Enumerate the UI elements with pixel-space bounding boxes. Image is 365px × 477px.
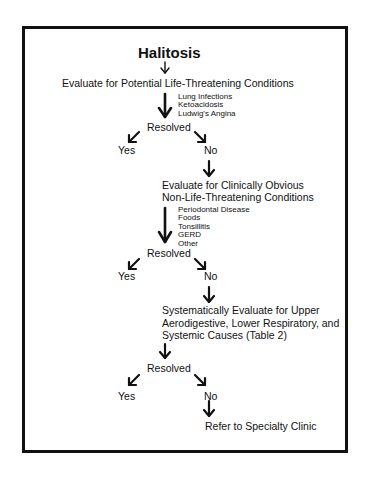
step-3-label-line-1: Systematically Evaluate for Upper [162,305,320,316]
step-3-no: No [204,391,217,402]
step-1-decision: Resolved [147,122,191,133]
step-1-yes: Yes [118,145,135,156]
consideration-item: Ludwig's Angina [178,110,236,118]
step-3-label-line-2: Aerodigestive, Lower Respiratory, and [162,318,339,329]
step-3-decision: Resolved [147,363,191,374]
step-3-yes: Yes [118,391,135,402]
step-2-considerations: Periodontal Disease Foods Tonsillitis GE… [178,206,250,248]
final-outcome: Refer to Specialty Clinic [205,421,316,432]
step-3-label-line-3: Systemic Causes (Table 2) [162,330,287,341]
step-1-label: Evaluate for Potential Life-Threatening … [62,78,294,89]
step-2-label-line-1: Evaluate for Clinically Obvious [162,180,304,191]
step-2-no: No [204,271,217,282]
diagram-title: Halitosis [138,45,201,60]
step-1-considerations: Lung Infections Ketoacidosis Ludwig's An… [178,93,236,118]
step-2-yes: Yes [118,271,135,282]
step-2-label-line-2: Non-Life-Threatening Conditions [162,192,314,203]
step-2-decision: Resolved [147,248,191,259]
step-1-no: No [204,145,217,156]
